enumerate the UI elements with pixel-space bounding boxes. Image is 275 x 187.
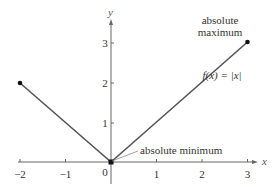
x-tick-label: 3 — [245, 168, 251, 180]
y-tick-label: 3 — [102, 37, 108, 49]
x-axis-label: x — [261, 155, 267, 167]
maximum-point-dot — [245, 40, 250, 45]
y-axis-label: y — [107, 6, 113, 18]
absolute-maximum-label-line1: absolute — [202, 14, 239, 26]
x-tick-label: −2 — [14, 168, 26, 180]
x-tick-label: −1 — [60, 168, 72, 180]
absolute-minimum-label: absolute minimum — [140, 144, 223, 156]
minimum-point-marker — [109, 160, 114, 165]
x-tick-label: 0 — [102, 166, 108, 178]
absolute-maximum-label-line2: maximum — [198, 26, 243, 38]
y-tick-label: 2 — [102, 77, 108, 89]
x-tick-label: 2 — [199, 168, 205, 180]
function-label: f(x) = |x| — [202, 69, 241, 82]
chart: −2 −1 0 1 2 3 1 2 3 x y absolute maximum… — [0, 0, 275, 187]
x-axis-arrow-icon — [252, 160, 258, 164]
y-axis-arrow-icon — [109, 19, 113, 25]
x-tick-label: 1 — [154, 168, 160, 180]
minimum-leader-line — [112, 151, 138, 161]
y-tick-label: 1 — [102, 117, 108, 129]
left-endpoint-dot — [18, 81, 23, 86]
